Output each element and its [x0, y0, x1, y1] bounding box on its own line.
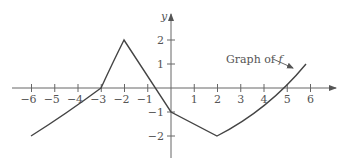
- y-tick-label: −2: [148, 130, 164, 143]
- x-tick-label: 6: [307, 93, 314, 106]
- y-axis-label: y: [160, 10, 168, 23]
- y-tick-label: −1: [148, 106, 164, 119]
- x-tick-label: 2: [214, 93, 221, 106]
- y-tick-label: 2: [157, 34, 164, 47]
- x-tick-label: 1: [191, 93, 198, 106]
- x-tick-label: 5: [284, 93, 291, 106]
- x-tick-label: 3: [237, 93, 244, 106]
- function-graph: −6−5−4−3−2−1123456 21−1−2 y Graph of f: [0, 0, 353, 167]
- x-tick-label: −6: [20, 93, 36, 106]
- x-tick-label: −2: [113, 93, 129, 106]
- x-tick-label: −1: [137, 93, 153, 106]
- x-tick-label: −5: [44, 93, 60, 106]
- y-tick-label: 1: [157, 58, 164, 71]
- x-tick-labels: −6−5−4−3−2−1123456: [20, 93, 314, 106]
- graph-annotation: Graph of f: [226, 53, 284, 66]
- x-tick-label: −4: [67, 93, 83, 106]
